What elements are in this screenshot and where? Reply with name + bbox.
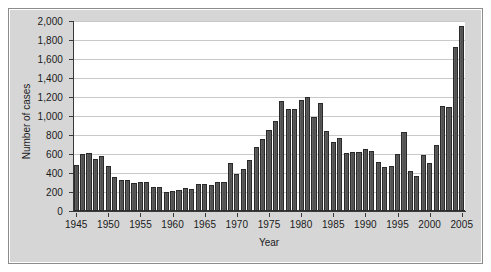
- bar-1987: [344, 153, 349, 211]
- x-tick-mark: [365, 213, 366, 217]
- bar-1970: [234, 174, 239, 211]
- x-tick-mark: [108, 213, 109, 217]
- bar-1971: [241, 169, 246, 211]
- x-tick-label: 1980: [290, 219, 313, 230]
- x-tick-label: 1985: [322, 219, 345, 230]
- bar-1995: [395, 154, 400, 211]
- x-axis-title: Year: [73, 237, 465, 248]
- bar-1991: [369, 151, 374, 211]
- y-tick-mark: [69, 154, 73, 155]
- y-tick-mark: [69, 192, 73, 193]
- x-tick-mark: [76, 213, 77, 217]
- y-tick-label: 400: [46, 168, 63, 179]
- y-axis-tick-labels: 02004006008001,0001,2001,4001,6001,8002,…: [9, 21, 71, 211]
- y-tick-label: 200: [46, 187, 63, 198]
- bar-1956: [144, 182, 149, 211]
- x-tick-mark: [333, 213, 334, 217]
- bar-1969: [228, 163, 233, 211]
- bar-1967: [215, 182, 220, 211]
- bar-1973: [254, 147, 259, 211]
- x-tick-label: 1990: [354, 219, 377, 230]
- bar-1982: [311, 117, 316, 211]
- x-tick-label: 1995: [386, 219, 409, 230]
- x-tick-label: 2005: [450, 219, 473, 230]
- x-axis-tick-labels: 1945195019551960196519701975198019851990…: [73, 213, 465, 233]
- bar-1988: [350, 152, 355, 211]
- bar-1999: [421, 155, 426, 211]
- x-tick-label: 1970: [226, 219, 249, 230]
- x-tick-mark: [269, 213, 270, 217]
- bar-1946: [80, 154, 85, 211]
- bar-1979: [292, 109, 297, 211]
- bar-2000: [427, 163, 432, 211]
- y-tick-mark: [69, 59, 73, 60]
- bar-1966: [209, 185, 214, 211]
- y-tick-label: 2,000: [37, 16, 63, 27]
- bar-1981: [305, 97, 310, 211]
- chart-figure-panel: 02004006008001,0001,2001,4001,6001,8002,…: [8, 8, 483, 264]
- y-tick-mark: [69, 116, 73, 117]
- y-tick-mark: [69, 40, 73, 41]
- x-tick-label: 1965: [193, 219, 216, 230]
- y-tick-label: 1,400: [37, 73, 63, 84]
- bar-1965: [202, 184, 207, 211]
- bar-2002: [440, 106, 445, 211]
- bar-1986: [337, 138, 342, 211]
- bar-1945: [74, 165, 79, 211]
- bar-1964: [196, 184, 201, 211]
- bar-1959: [164, 192, 169, 211]
- bar-1961: [176, 190, 181, 211]
- bar-1994: [389, 166, 394, 211]
- x-tick-mark: [398, 213, 399, 217]
- bar-1978: [286, 109, 291, 211]
- bar-1955: [138, 182, 143, 211]
- y-tick-label: 1,800: [37, 35, 63, 46]
- y-tick-label: 600: [46, 149, 63, 160]
- bar-2003: [446, 107, 451, 211]
- x-tick-label: 1960: [161, 219, 184, 230]
- bar-1974: [260, 139, 265, 211]
- bar-1953: [125, 180, 130, 211]
- bar-1980: [299, 100, 304, 211]
- y-tick-mark: [69, 97, 73, 98]
- bar-1990: [363, 149, 368, 211]
- x-tick-label: 1955: [129, 219, 152, 230]
- plot-area: [73, 21, 465, 211]
- y-axis-title: Number of cases: [21, 67, 32, 177]
- y-tick-label: 800: [46, 130, 63, 141]
- x-tick-label: 1945: [65, 219, 88, 230]
- bar-1998: [414, 176, 419, 211]
- x-tick-mark: [237, 213, 238, 217]
- y-tick-mark: [69, 21, 73, 22]
- bar-2001: [434, 145, 439, 212]
- bar-1968: [221, 182, 226, 211]
- bar-1972: [247, 160, 252, 211]
- bar-1977: [279, 101, 284, 211]
- bar-1962: [183, 188, 188, 211]
- y-tick-label: 1,600: [37, 54, 63, 65]
- bar-1957: [151, 187, 156, 211]
- x-tick-label: 1950: [97, 219, 120, 230]
- bar-1976: [273, 121, 278, 211]
- bar-1989: [356, 152, 361, 211]
- bar-1984: [324, 131, 329, 211]
- bar-1951: [112, 177, 117, 211]
- x-tick-mark: [173, 213, 174, 217]
- bar-1960: [170, 191, 175, 211]
- bar-1954: [131, 183, 136, 212]
- y-tick-mark: [69, 173, 73, 174]
- bar-1948: [93, 159, 98, 211]
- x-tick-label: 2000: [418, 219, 441, 230]
- y-tick-mark: [69, 78, 73, 79]
- y-tick-mark: [69, 135, 73, 136]
- bar-1949: [99, 156, 104, 211]
- x-tick-label: 1975: [258, 219, 281, 230]
- bar-1975: [266, 130, 271, 211]
- bar-series: [73, 21, 465, 211]
- y-tick-label: 1,200: [37, 92, 63, 103]
- bar-1947: [86, 153, 91, 211]
- bar-2005: [459, 26, 464, 211]
- bar-1950: [106, 166, 111, 211]
- x-tick-mark: [430, 213, 431, 217]
- bar-1963: [189, 189, 194, 211]
